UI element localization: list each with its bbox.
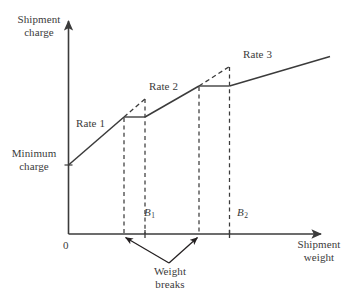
weight-break-arrow-right [169,238,198,264]
break-2-label: B2 [237,206,248,221]
rate3-solid-segment [230,57,331,87]
minimum-charge-label: Minimum charge [3,147,65,172]
rate2-dashed-extrapolation [199,67,230,87]
weight-breaks-label: Weight breaks [139,265,201,290]
freight-rate-figure: Shipment charge Minimum charge Shipment … [0,0,350,303]
break-1-subscript: 1 [151,211,155,220]
rate-1-label: Rate 1 [76,117,105,130]
break-1-letter: B [144,206,151,218]
break-2-subscript: 2 [244,211,248,220]
rate1-dashed-extrapolation [124,99,146,118]
break-1-label: B1 [144,206,155,221]
y-axis-title: Shipment charge [8,13,70,38]
weight-break-arrow-left [126,238,170,264]
x-axis-title: Shipment weight [289,238,349,263]
origin-label: 0 [63,239,69,252]
break-2-letter: B [237,206,244,218]
rate-2-label: Rate 2 [149,80,178,93]
rate-3-label: Rate 3 [243,48,272,61]
